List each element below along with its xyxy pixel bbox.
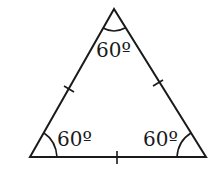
angle-arc-top <box>103 28 125 31</box>
angle-label-bottom-right: 60º <box>143 127 178 151</box>
angle-label-top: 60º <box>96 38 131 62</box>
angle-arc-bottom-right <box>177 133 191 157</box>
triangle-diagram: 60º 60º 60º <box>0 0 217 174</box>
angle-label-bottom-left: 60º <box>57 127 92 151</box>
angle-arc-bottom-left <box>44 133 57 157</box>
